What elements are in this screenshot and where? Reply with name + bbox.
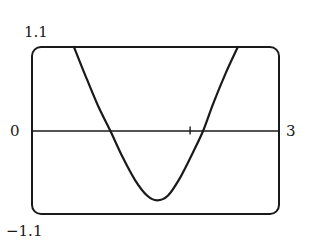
y-zero-label: 0 — [10, 124, 20, 139]
function-curve — [74, 47, 238, 200]
y-max-label: 1.1 — [24, 25, 48, 40]
x-max-label: 3 — [286, 124, 296, 139]
y-min-label: −1.1 — [6, 224, 42, 239]
